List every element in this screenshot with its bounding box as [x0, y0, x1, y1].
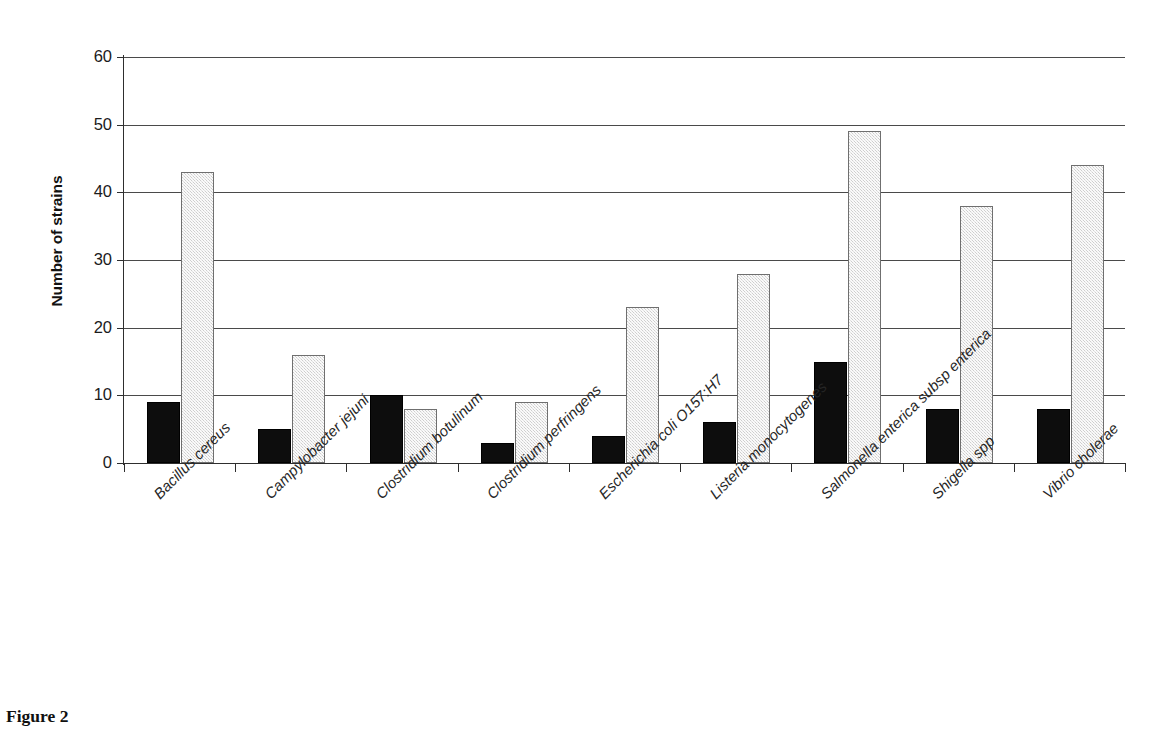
- x-tick-mark-6: [791, 463, 792, 472]
- y-tick-mark-50: [117, 125, 124, 126]
- bar-series-1-6: [814, 362, 847, 464]
- x-tick-mark-5: [680, 463, 681, 472]
- y-tick-mark-60: [117, 57, 124, 58]
- x-tick-mark-4: [569, 463, 570, 472]
- y-axis-title: Number of strains: [48, 146, 66, 336]
- y-tick-label-20: 20: [52, 318, 112, 337]
- x-tick-mark-1: [235, 463, 236, 472]
- bar-series-2-6: [848, 131, 881, 463]
- bar-series-1-4: [592, 436, 625, 463]
- x-tick-mark-2: [346, 463, 347, 472]
- bar-series-1-5: [703, 422, 736, 463]
- bar-series-1-0: [147, 402, 180, 463]
- gridline-40: [124, 192, 1125, 193]
- plot-area: 0102030405060: [124, 57, 1125, 463]
- figure-caption: Figure 2: [6, 706, 68, 727]
- bar-series-1-2: [370, 395, 403, 463]
- bar-series-1-7: [926, 409, 959, 463]
- y-tick-mark-10: [117, 395, 124, 396]
- y-tick-label-50: 50: [52, 115, 112, 134]
- bar-series-2-0: [181, 172, 214, 463]
- gridline-50: [124, 125, 1125, 126]
- y-tick-label-30: 30: [52, 250, 112, 269]
- y-tick-mark-0: [117, 463, 124, 464]
- x-tick-mark-8: [1014, 463, 1015, 472]
- y-tick-mark-30: [117, 260, 124, 261]
- x-tick-mark-9: [1125, 463, 1126, 472]
- bar-series-1-1: [258, 429, 291, 463]
- y-tick-mark-20: [117, 328, 124, 329]
- y-tick-label-40: 40: [52, 182, 112, 201]
- figure-2: Number of strains 0102030405060 Bacillus…: [0, 0, 1171, 745]
- bar-series-2-8: [1071, 165, 1104, 463]
- gridline-60: [124, 57, 1125, 58]
- x-tick-mark-0: [124, 463, 125, 472]
- x-tick-mark-3: [458, 463, 459, 472]
- y-tick-label-60: 60: [52, 47, 112, 66]
- y-tick-mark-40: [117, 192, 124, 193]
- x-tick-mark-7: [903, 463, 904, 472]
- y-tick-label-0: 0: [52, 453, 112, 472]
- bar-series-1-8: [1037, 409, 1070, 463]
- y-tick-label-10: 10: [52, 385, 112, 404]
- bar-series-1-3: [481, 443, 514, 463]
